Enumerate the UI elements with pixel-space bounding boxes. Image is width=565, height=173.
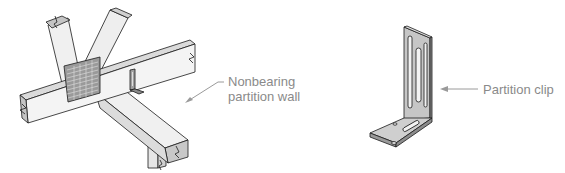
- partition-clip-label: Partition clip: [483, 82, 554, 97]
- label-line-2: partition wall: [228, 89, 300, 104]
- partition-clip-leader: [440, 86, 478, 92]
- partition-wall-leader: [185, 82, 224, 103]
- partition-clip-detail: [370, 26, 432, 147]
- nonbearing-partition-wall-label: Nonbearing partition wall: [228, 74, 300, 104]
- truss-assembly: [20, 8, 195, 170]
- label-line-1: Nonbearing: [228, 74, 300, 89]
